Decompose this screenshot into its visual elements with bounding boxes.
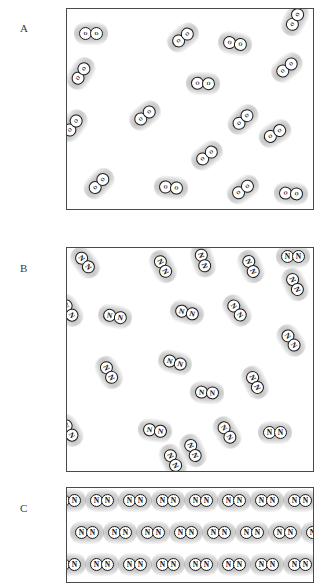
- atom-symbol: N: [210, 389, 216, 397]
- atom: N: [284, 526, 297, 539]
- atom-symbol: N: [72, 561, 77, 569]
- atom-symbol: O: [184, 31, 190, 37]
- atom-symbol: N: [90, 529, 95, 537]
- atom: N: [152, 526, 165, 539]
- atom-symbol: O: [92, 184, 98, 190]
- atom: N: [167, 494, 180, 507]
- atom-symbol: O: [294, 12, 300, 18]
- atom-symbol: O: [75, 75, 81, 81]
- molecule: NN: [156, 558, 180, 571]
- molecule: NN: [279, 327, 303, 354]
- atom-symbol: N: [106, 311, 113, 319]
- molecule: NN: [66, 297, 81, 324]
- atom-symbol: O: [227, 40, 232, 46]
- atom-symbol: N: [270, 561, 275, 569]
- atom-symbol: N: [67, 311, 76, 320]
- atom-symbol: N: [160, 497, 165, 505]
- molecule: OO: [170, 25, 197, 50]
- atom-symbol: N: [94, 561, 99, 569]
- atom-symbol: O: [95, 31, 99, 36]
- atom-symbol: N: [197, 252, 206, 259]
- molecule: NN: [189, 494, 213, 507]
- atom: N: [86, 526, 99, 539]
- atom: N: [101, 558, 114, 571]
- atom-symbol: N: [193, 561, 198, 569]
- atom-symbol: O: [236, 120, 242, 126]
- atom: N: [119, 526, 132, 539]
- atom: N: [167, 558, 180, 571]
- atom-symbol: N: [178, 529, 183, 537]
- molecule: NN: [66, 494, 81, 507]
- atom: N: [299, 494, 312, 507]
- atom-symbol: N: [270, 497, 275, 505]
- atom-symbol: N: [289, 341, 298, 350]
- atom-symbol: O: [67, 127, 73, 133]
- atom: N: [134, 558, 147, 571]
- atom-symbol: N: [277, 529, 282, 537]
- atom-symbol: N: [145, 529, 150, 537]
- panel-c-box: NNNNNNNNNNNNNNNNNNNNNNNNNNNNNNNNNNNNNNNN…: [66, 487, 314, 583]
- molecule: NN: [222, 494, 246, 507]
- atom-symbol: N: [166, 357, 173, 366]
- atom-symbol: O: [238, 42, 243, 48]
- panel-b-label: B: [20, 262, 28, 274]
- molecule: OO: [79, 27, 103, 40]
- atom-symbol: N: [105, 561, 110, 569]
- atom-symbol: N: [94, 497, 99, 505]
- atom-symbol: O: [138, 116, 144, 122]
- molecule: NN: [255, 494, 279, 507]
- atom-symbol: N: [237, 497, 242, 505]
- molecule: NN: [240, 253, 262, 280]
- atom-symbol: N: [293, 285, 302, 293]
- molecule: OO: [86, 170, 112, 196]
- atom-symbol: O: [277, 127, 283, 133]
- molecule: NN: [255, 558, 279, 571]
- atom-symbol: O: [146, 109, 152, 115]
- atom-symbol: N: [112, 529, 117, 537]
- atom-symbol: N: [296, 253, 301, 261]
- atom-symbol: O: [163, 184, 167, 189]
- molecule: NN: [281, 250, 305, 263]
- molecule: NN: [288, 558, 312, 571]
- molecule: NN: [195, 385, 220, 400]
- atom-symbol: O: [288, 61, 294, 67]
- atom-symbol: N: [288, 529, 293, 537]
- panel-a-molecules: OOOOOOOOOOOOOOOOOOOOOOOOOOOOOOOO: [67, 9, 313, 209]
- molecule: OO: [261, 122, 288, 146]
- atom-symbol: O: [195, 81, 199, 86]
- atom-symbol: N: [191, 452, 200, 460]
- atom-symbol: N: [193, 497, 198, 505]
- molecule: NN: [66, 558, 81, 571]
- atom-symbol: N: [138, 561, 143, 569]
- atom-symbol: N: [105, 497, 110, 505]
- panel-a-label: A: [20, 22, 28, 34]
- atom-symbol: N: [226, 561, 231, 569]
- molecule: OO: [194, 143, 221, 168]
- molecule: NN: [189, 558, 213, 571]
- atom-symbol: O: [267, 133, 273, 139]
- atom-symbol: N: [138, 497, 143, 505]
- molecule: NN: [263, 426, 287, 439]
- atom-symbol: N: [292, 497, 297, 505]
- atom-symbol: N: [225, 433, 234, 442]
- atom-symbol: O: [176, 38, 182, 44]
- atom: N: [266, 494, 279, 507]
- atom-symbol: N: [160, 561, 165, 569]
- atom-symbol: N: [226, 497, 231, 505]
- atom-symbol: O: [100, 176, 106, 182]
- atom-symbol: O: [84, 31, 88, 36]
- atom-symbol: N: [292, 561, 297, 569]
- atom-symbol: N: [204, 561, 209, 569]
- atom-symbol: O: [208, 149, 214, 155]
- molecule: OO: [284, 8, 307, 33]
- molecule: NN: [193, 247, 213, 274]
- atom-symbol: N: [117, 313, 124, 321]
- atom-symbol: N: [161, 267, 170, 275]
- molecule: NN: [66, 417, 81, 444]
- atom-symbol: N: [171, 561, 176, 569]
- atom-symbol: N: [72, 497, 77, 505]
- molecule: NN: [174, 526, 198, 539]
- atom-symbol: N: [177, 360, 184, 369]
- atom: N: [251, 526, 264, 539]
